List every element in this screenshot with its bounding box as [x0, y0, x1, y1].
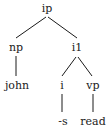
node-john: john: [5, 80, 29, 92]
edge-i1-i: [62, 57, 76, 76]
edge-ip-i1: [48, 17, 77, 38]
node-np: np: [9, 42, 23, 54]
edge-i1-vp: [78, 57, 92, 76]
node-s: -s: [58, 116, 67, 128]
syntax-tree-diagram: ip np i1 john i vp -s read: [0, 0, 109, 137]
edge-ip-np: [16, 17, 46, 38]
node-ip: ip: [42, 3, 53, 15]
node-i: i: [60, 80, 64, 92]
node-vp: vp: [86, 80, 99, 92]
node-read: read: [80, 116, 105, 128]
node-i1: i1: [72, 42, 83, 54]
